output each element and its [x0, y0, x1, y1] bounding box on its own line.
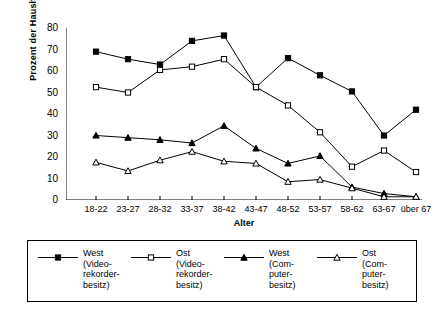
legend-marker-open-square-icon: [131, 249, 171, 260]
legend-entry[interactable]: West(Video-rekorder-besitz): [38, 248, 131, 301]
y-axis-tick-label: 30: [38, 131, 58, 141]
y-axis-tick-label: 40: [38, 109, 58, 119]
data-point-marker: [125, 57, 130, 62]
data-point-marker: [413, 107, 418, 112]
legend-label-line: (Com-: [362, 259, 389, 270]
data-point-marker: [125, 90, 130, 95]
data-point-marker: [93, 159, 99, 165]
y-axis-tick-label: 50: [38, 88, 58, 98]
series-line-1: [96, 59, 416, 172]
legend-label-line: besitz): [83, 280, 120, 291]
x-axis: 18-2223-2728-3233-3738-4243-4748-5253-57…: [66, 204, 422, 216]
y-axis-tick-label: 70: [38, 45, 58, 55]
legend-label-line: rekorder-: [83, 269, 120, 280]
legend-label-line: besitz): [269, 280, 296, 291]
data-point-marker: [317, 73, 322, 78]
data-point-marker: [285, 103, 290, 108]
legend-marker-open-triangle-icon: [317, 249, 357, 260]
legend-label: West(Video-rekorder-besitz): [83, 248, 120, 290]
legend-label-line: (Video-: [83, 259, 120, 270]
data-point-marker: [317, 130, 322, 135]
data-point-marker: [285, 56, 290, 61]
legend-label: West(Com-puter-besitz): [269, 248, 296, 290]
y-axis-tick-label: 60: [38, 66, 58, 76]
x-axis-title: Alter: [66, 218, 422, 228]
legend-label: Ost(Com-puter-besitz): [362, 248, 389, 290]
legend-label-line: West: [83, 248, 120, 259]
data-point-marker: [189, 64, 194, 69]
legend-label-line: Ost: [176, 248, 213, 259]
data-point-marker: [221, 33, 226, 38]
legend-label-line: rekorder-: [176, 269, 213, 280]
legend-label-line: (Video-: [176, 259, 213, 270]
data-point-marker: [317, 153, 323, 159]
y-axis-title: Prozent der Haushalte: [28, 0, 38, 106]
legend-entries: West(Video-rekorder-besitz)Ost(Video-rek…: [28, 241, 416, 301]
legend-label: Ost(Video-rekorder-besitz): [176, 248, 213, 290]
y-axis-tick-label: 10: [38, 174, 58, 184]
data-point-marker: [221, 57, 226, 62]
data-point-marker: [93, 49, 98, 54]
data-point-marker: [157, 67, 162, 72]
chart-container: Prozent der Haushalte 80706050403020100 …: [0, 0, 446, 328]
legend-label-line: puter-: [269, 269, 296, 280]
legend-label-line: besitz): [176, 280, 213, 291]
plot-area: [66, 28, 422, 200]
legend-entry[interactable]: Ost(Com-puter-besitz): [317, 248, 410, 301]
data-point-marker: [381, 148, 386, 153]
x-axis-tick-labels: 18-2223-2728-3233-3738-4243-4748-5253-57…: [66, 204, 422, 216]
legend-entry[interactable]: West(Com-puter-besitz): [224, 248, 317, 301]
legend-label-line: West: [269, 248, 296, 259]
data-point-marker: [349, 89, 354, 94]
legend-label-line: besitz): [362, 280, 389, 291]
data-point-marker: [189, 148, 195, 154]
y-axis-tick-label: 80: [38, 23, 58, 33]
data-point-marker: [93, 85, 98, 90]
legend: West(Video-rekorder-besitz)Ost(Video-rek…: [27, 240, 417, 302]
data-point-marker: [157, 62, 162, 67]
legend-marker-filled-square-icon: [38, 249, 78, 260]
data-point-marker: [381, 133, 386, 138]
data-point-marker: [253, 145, 259, 151]
data-point-marker: [221, 123, 227, 129]
data-point-marker: [189, 38, 194, 43]
data-point-marker: [253, 85, 258, 90]
x-axis-tick-label: über 67: [395, 204, 437, 214]
y-axis-tick-label: 0: [38, 195, 58, 205]
legend-entry[interactable]: Ost(Video-rekorder-besitz): [131, 248, 224, 301]
legend-marker-filled-triangle-icon: [224, 249, 264, 260]
legend-label-line: (Com-: [269, 259, 296, 270]
y-axis-tick-label: 20: [38, 152, 58, 162]
legend-label-line: puter-: [362, 269, 389, 280]
data-point-marker: [413, 169, 418, 174]
series-canvas: [66, 28, 422, 200]
data-point-marker: [349, 164, 354, 169]
legend-label-line: Ost: [362, 248, 389, 259]
